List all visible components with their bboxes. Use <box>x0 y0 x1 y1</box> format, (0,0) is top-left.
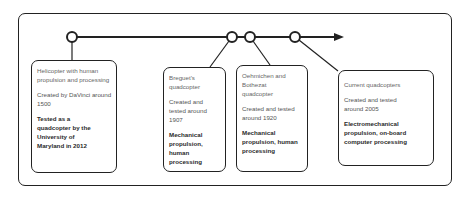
event-card-davinci: Helicopter with human propulsion and pro… <box>31 60 117 173</box>
connector-2 <box>210 41 229 67</box>
quadcopter-history-timeline: Helicopter with human propulsion and pro… <box>0 0 472 197</box>
event-card-breguet: Breguet's quadcopter Created and tested … <box>163 67 226 172</box>
event-created: Created and tested around 1907 <box>169 97 221 124</box>
event-title: Current quadcopters <box>344 80 429 89</box>
event-card-oehmichen: Oehmichen and Bothezat quadcopter Create… <box>236 65 308 172</box>
event-marker-1920 <box>245 32 255 42</box>
event-note: Mechanical propulsion, human processing <box>242 128 303 155</box>
event-card-current: Current quadcopters Created and tested a… <box>338 70 434 166</box>
event-title: Oehmichen and Bothezat quadcopter <box>242 71 303 98</box>
event-marker-1907 <box>227 32 237 42</box>
event-marker-1500 <box>67 32 77 42</box>
connector-3 <box>253 41 270 65</box>
event-marker-2005 <box>290 32 300 42</box>
event-note: Tested as a quadcopter by the University… <box>37 114 112 150</box>
event-created: Created and tested around 1920 <box>242 104 303 122</box>
arrow-head-icon <box>334 33 344 41</box>
event-title: Helicopter with human propulsion and pro… <box>37 66 112 84</box>
event-title: Breguet's quadcopter <box>169 73 221 91</box>
event-note: Electromechanical propulsion, on-board c… <box>344 119 429 146</box>
event-created: Created by DaVinci around 1500 <box>37 90 112 108</box>
event-created: Created and tested around 2005 <box>344 95 429 113</box>
event-note: Mechanical propulsion, human processing <box>169 130 221 166</box>
